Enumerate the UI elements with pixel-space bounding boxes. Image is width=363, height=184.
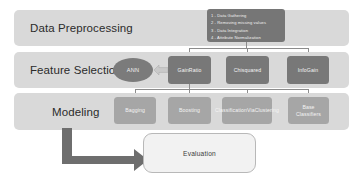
preprocessing-step-4: 4 - Attribute Normalization xyxy=(211,34,285,41)
stage-band-preprocessing: Data Preprocessing xyxy=(14,10,349,46)
node-bagging[interactable]: Bagging xyxy=(114,97,156,124)
node-base-classifiers-label: Base Classifiers xyxy=(290,104,327,117)
node-infogain-label: InfoGain xyxy=(298,67,318,74)
node-base-classifiers[interactable]: Base Classifiers xyxy=(288,97,329,124)
preprocessing-step-3: 3 - Data Integration xyxy=(211,27,285,34)
node-classification-via-clustering[interactable]: ClassificationViaClustering xyxy=(222,97,272,124)
pipeline-diagram: Data Preprocessing 1 - Data Gathering 2 … xyxy=(0,0,363,184)
preprocessing-steps-box: 1 - Data Gathering 2 - Removing missing … xyxy=(207,9,285,42)
node-gainratio[interactable]: GainRatio xyxy=(168,56,211,84)
preprocessing-step-2: 2 - Removing missing values xyxy=(211,19,285,26)
block-arrow-left-icon xyxy=(154,64,168,76)
node-evaluation-label: Evaluation xyxy=(183,150,216,157)
node-boosting-label: Boosting xyxy=(179,107,200,114)
stage-label-feature-selection: Feature Selection xyxy=(30,64,122,76)
node-infogain[interactable]: InfoGain xyxy=(287,56,329,84)
node-chisquared-label: Chisquared xyxy=(234,67,262,74)
node-ann[interactable]: ANN xyxy=(113,58,153,82)
node-chisquared[interactable]: Chisquared xyxy=(226,56,269,84)
stage-label-modeling: Modeling xyxy=(52,106,99,118)
preprocessing-step-1: 1 - Data Gathering xyxy=(211,12,285,19)
node-ann-label: ANN xyxy=(127,67,139,73)
node-gainratio-label: GainRatio xyxy=(178,67,202,74)
node-evaluation[interactable]: Evaluation xyxy=(143,133,256,173)
connector-featureselect-bus xyxy=(189,48,308,49)
stage-label-preprocessing: Data Preprocessing xyxy=(30,22,133,34)
node-bagging-label: Bagging xyxy=(125,107,145,114)
connector-modeling-bus xyxy=(135,89,309,90)
elbow-arrow-right-icon xyxy=(60,128,148,176)
node-classification-via-clustering-label: ClassificationViaClustering xyxy=(215,107,279,114)
node-boosting[interactable]: Boosting xyxy=(168,97,211,124)
